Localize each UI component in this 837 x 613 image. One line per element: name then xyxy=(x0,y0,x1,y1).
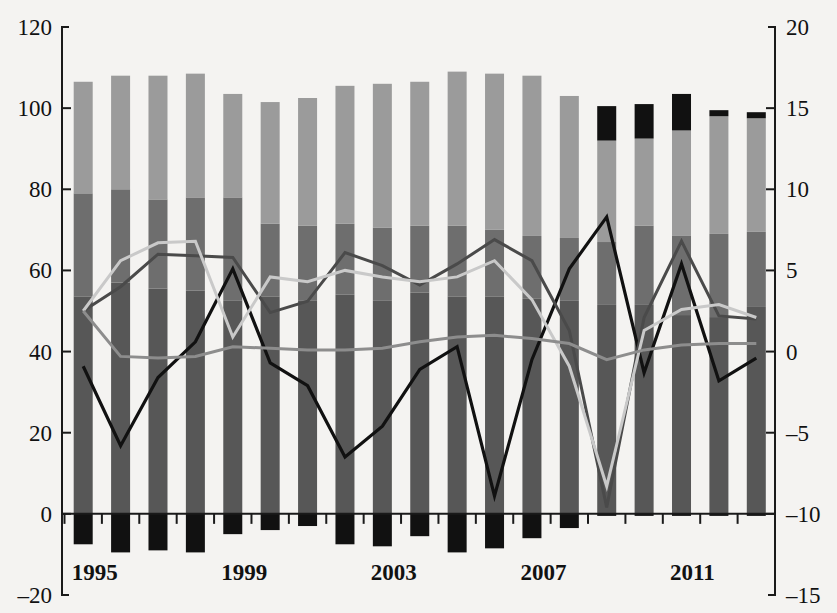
bar-segment xyxy=(373,301,392,514)
chart-figure: –20020406080100120 –15–10–505101520 1995… xyxy=(0,0,837,613)
bar-segment xyxy=(485,297,504,514)
left-axis-tick-label: 0 xyxy=(41,502,53,527)
bar-segment-negative xyxy=(560,514,579,528)
bar-segment xyxy=(448,297,467,514)
bar-segment-negative xyxy=(298,514,317,526)
bar-segment-negative xyxy=(74,514,93,544)
bar-segment xyxy=(148,289,167,514)
bar-segment xyxy=(522,236,541,299)
bar-segment xyxy=(111,76,130,190)
x-axis-label: 2011 xyxy=(670,560,715,585)
bar-segment xyxy=(298,226,317,301)
bar-segment xyxy=(635,104,654,138)
bar-segment xyxy=(298,301,317,514)
left-axis-tick-label: 120 xyxy=(18,15,53,40)
bar-segment xyxy=(186,291,205,514)
bar-segment-negative xyxy=(261,514,280,530)
bar-segment xyxy=(186,74,205,198)
bar-segment xyxy=(74,82,93,194)
bar-segment-negative xyxy=(522,514,541,538)
left-axis-tick-label: –20 xyxy=(17,583,53,608)
bar-segment xyxy=(335,86,354,224)
bar-segment xyxy=(373,84,392,228)
bar-segment-negative xyxy=(186,514,205,553)
bar-segment xyxy=(448,72,467,226)
bar-segment xyxy=(747,232,766,307)
bar-segment-negative xyxy=(335,514,354,544)
x-axis-label: 2003 xyxy=(371,560,417,585)
bar-segment xyxy=(410,293,429,514)
left-axis-tick-label: 80 xyxy=(29,177,52,202)
bar-segment xyxy=(635,226,654,305)
bar-segment xyxy=(410,82,429,226)
right-axis-tick-label: 15 xyxy=(786,96,809,121)
bar-segment xyxy=(709,317,728,514)
bar-segment xyxy=(747,307,766,514)
bar-segment xyxy=(522,299,541,514)
x-axis-label: 1995 xyxy=(72,560,118,585)
bar-segment xyxy=(672,130,691,235)
bar-segment-negative xyxy=(223,514,242,534)
right-axis-tick-label: 0 xyxy=(786,340,798,365)
bar-segment-negative xyxy=(448,514,467,553)
right-axis-tick-label: 5 xyxy=(786,258,798,283)
bar-segment-negative xyxy=(373,514,392,546)
right-axis-tick-label: –10 xyxy=(785,502,821,527)
bar-segment xyxy=(261,102,280,224)
bar-segment xyxy=(522,76,541,236)
bar-segment xyxy=(485,74,504,230)
bar-segment xyxy=(709,110,728,116)
bar-segment xyxy=(747,118,766,232)
chart-canvas: –20020406080100120 –15–10–505101520 1995… xyxy=(0,0,837,613)
bar-segment xyxy=(74,297,93,514)
right-axis-tick-label: –15 xyxy=(785,583,821,608)
left-axis-tick-label: 20 xyxy=(29,421,52,446)
right-axis-tick-label: 20 xyxy=(786,15,809,40)
bar-segment-negative xyxy=(410,514,429,536)
bar-segment xyxy=(148,76,167,200)
bar-segment xyxy=(223,301,242,514)
x-axis-label: 1999 xyxy=(221,560,267,585)
bar-segment-negative xyxy=(148,514,167,551)
bar-segment xyxy=(335,295,354,514)
left-axis-tick-label: 40 xyxy=(29,340,52,365)
bar-segment xyxy=(74,193,93,296)
left-axis-tick-label: 100 xyxy=(18,96,53,121)
bar-segment xyxy=(635,139,654,226)
bar-segment xyxy=(560,96,579,238)
right-axis-tick-label: –5 xyxy=(785,421,809,446)
bar-segment xyxy=(261,297,280,514)
left-axis-tick-label: 60 xyxy=(29,258,52,283)
bar-segment xyxy=(111,283,130,514)
bar-segment xyxy=(709,116,728,234)
right-axis-tick-label: 10 xyxy=(786,177,809,202)
bar-segment xyxy=(672,236,691,315)
bar-segment xyxy=(223,94,242,197)
bar-segment xyxy=(672,94,691,131)
bar-segment xyxy=(597,106,616,140)
x-axis-label: 2007 xyxy=(520,560,566,585)
bar-segment xyxy=(747,112,766,118)
bar-segment-negative xyxy=(485,514,504,548)
bar-segment-negative xyxy=(111,514,130,553)
bar-segment xyxy=(298,98,317,226)
